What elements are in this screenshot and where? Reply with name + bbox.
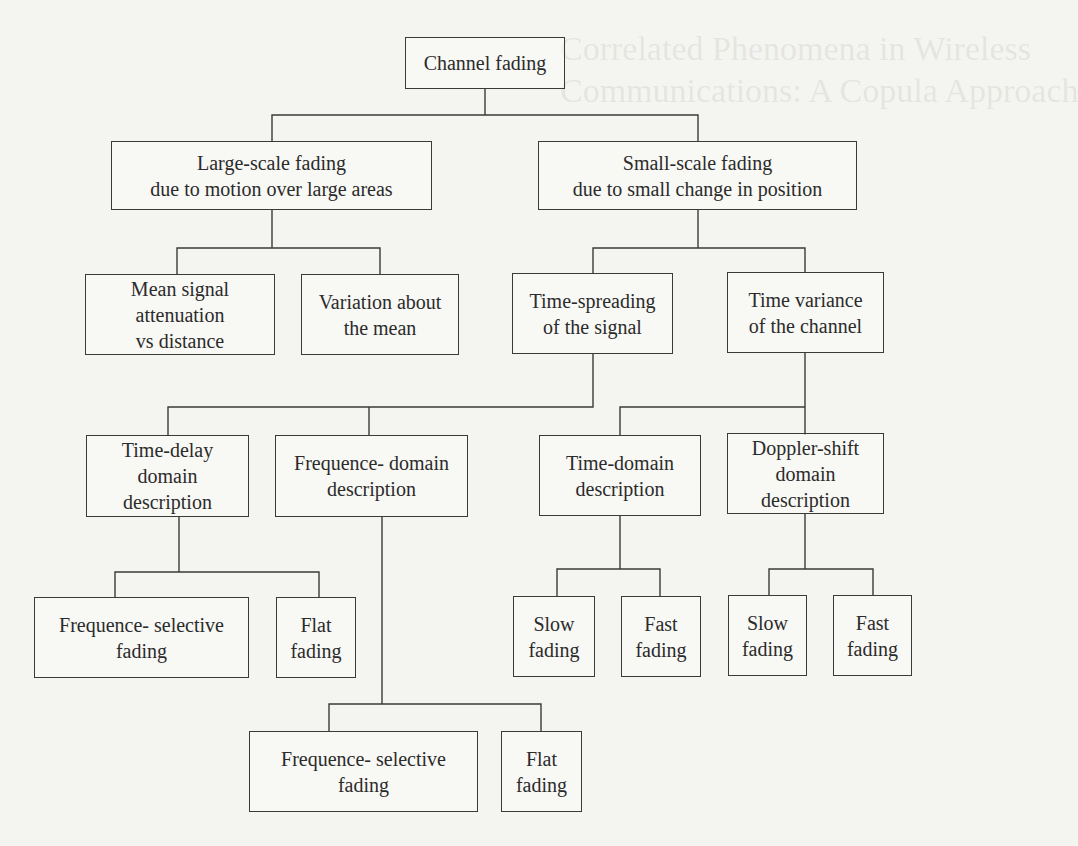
node-time-domain: Time-domain description xyxy=(539,435,701,516)
node-fast-fading-2: Fast fading xyxy=(833,595,912,676)
node-label: Slow fading xyxy=(742,610,793,662)
node-variation-about-mean: Variation about the mean xyxy=(301,274,459,355)
node-label: Doppler-shift domain description xyxy=(752,435,859,513)
node-doppler-shift-domain: Doppler-shift domain description xyxy=(727,433,884,514)
node-large-scale-fading: Large-scale fading due to motion over la… xyxy=(111,141,432,210)
node-label: Flat fading xyxy=(516,746,567,798)
node-label: Fast fading xyxy=(635,611,686,663)
node-flat-fading-1: Flat fading xyxy=(276,597,356,678)
node-label: Channel fading xyxy=(424,50,547,76)
node-mean-signal-attenuation: Mean signal attenuation vs distance xyxy=(85,274,275,355)
node-label: Flat fading xyxy=(290,612,341,664)
node-label: Small-scale fading due to small change i… xyxy=(573,150,822,202)
node-slow-fading-2: Slow fading xyxy=(728,595,807,676)
node-time-variance: Time variance of the channel xyxy=(727,272,884,353)
node-label: Frequence- domain description xyxy=(294,450,449,502)
node-freq-selective-fading-1: Frequence- selective fading xyxy=(34,597,249,678)
node-label: Time-domain description xyxy=(566,450,674,502)
node-label: Mean signal attenuation vs distance xyxy=(131,276,229,354)
node-label: Large-scale fading due to motion over la… xyxy=(150,150,392,202)
node-fast-fading-1: Fast fading xyxy=(621,596,701,677)
node-flat-fading-2: Flat fading xyxy=(501,731,582,812)
node-label: Time-delay domain description xyxy=(122,437,213,515)
node-frequence-domain: Frequence- domain description xyxy=(275,435,468,517)
node-channel-fading: Channel fading xyxy=(405,37,565,89)
node-label: Fast fading xyxy=(847,610,898,662)
node-label: Frequence- selective fading xyxy=(281,746,446,798)
node-label: Frequence- selective fading xyxy=(59,612,224,664)
node-label: Time-spreading of the signal xyxy=(530,288,656,340)
node-label: Time variance of the channel xyxy=(748,287,862,339)
node-label: Variation about the mean xyxy=(319,289,442,341)
node-time-spreading: Time-spreading of the signal xyxy=(512,273,673,354)
node-label: Slow fading xyxy=(528,611,579,663)
node-small-scale-fading: Small-scale fading due to small change i… xyxy=(538,141,857,210)
node-slow-fading-1: Slow fading xyxy=(513,596,595,677)
node-freq-selective-fading-2: Frequence- selective fading xyxy=(249,731,478,812)
node-time-delay-domain: Time-delay domain description xyxy=(86,435,249,517)
